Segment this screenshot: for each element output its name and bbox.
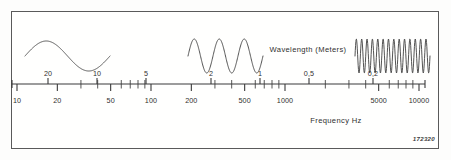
wavelength-tick-label: 10 [93,70,101,77]
plate-number: 172320 [413,136,435,142]
frequency-tick-label: 50 [107,97,115,104]
wave-frequency-diagram [0,0,451,160]
frequency-tick-label: 20 [53,97,61,104]
mid-frequency-wave [188,39,263,73]
frequency-axis-caption: Frequency Hz [310,117,361,125]
wavelength-tick-label: 0,5 [304,70,314,77]
frequency-tick-label: 10000 [409,97,430,104]
wavelength-axis-caption: Wavelength (Meters) [270,46,347,54]
frequency-tick-label: 500 [239,97,251,104]
figure-root: 20105210,50,2102050100200500100050001000… [0,0,451,160]
high-frequency-wave [355,39,430,73]
wavelength-tick-label: 20 [44,70,52,77]
axis-layer [12,78,425,91]
low-frequency-wave [25,41,110,71]
frequency-tick-label: 10 [13,97,21,104]
wavelength-tick-label: 2 [209,70,213,77]
frequency-tick-label: 1000 [277,97,293,104]
wavelength-tick-label: 0,2 [368,70,378,77]
wavelength-tick-label: 5 [144,70,148,77]
waveform-layer [25,39,430,73]
frequency-tick-label: 5000 [370,97,386,104]
frequency-tick-label: 200 [185,97,197,104]
wavelength-tick-label: 1 [258,70,262,77]
frequency-tick-label: 100 [145,97,157,104]
